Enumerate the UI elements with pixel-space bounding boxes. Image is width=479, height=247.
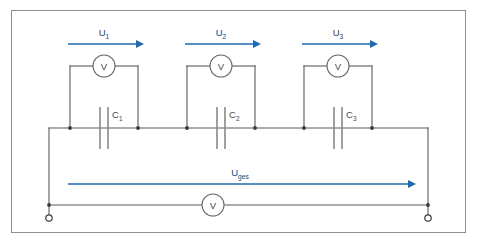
branch-2-voltage-label: U2: [216, 27, 227, 40]
branch-1-node-right: [136, 126, 140, 130]
branch-2-arrowhead: [253, 40, 261, 48]
branch-1-arrowhead: [136, 40, 144, 48]
branch-3-voltage-label-subscript: 3: [340, 33, 344, 40]
branch-2-group: U2 V C2: [185, 27, 261, 149]
branch-1-group: U1 V C1: [68, 27, 144, 149]
branch-1-voltmeter-label: V: [101, 61, 108, 72]
branch-1-voltage-label: U1: [99, 27, 110, 40]
branch-2-voltage-label-subscript: 2: [223, 33, 227, 40]
branch-2-node-left: [185, 126, 189, 130]
branch-3-node-left: [302, 126, 306, 130]
branch-3-group: U3 V C3: [302, 27, 378, 149]
bottom-node-left: [47, 203, 51, 207]
branch-3-arrowhead: [370, 40, 378, 48]
branch-3-capacitor-label: C3: [346, 109, 357, 122]
bottom-node-right: [426, 203, 430, 207]
total-voltmeter-label: V: [210, 200, 217, 211]
branch-2-capacitor-label: C2: [229, 109, 240, 122]
total-branch-group: Uges V: [47, 167, 430, 216]
diagram-canvas: U1 V C1 U2 V: [0, 0, 479, 247]
total-voltage-label-subscript: ges: [238, 173, 249, 181]
branch-1-voltage-label-subscript: 1: [106, 33, 110, 40]
branch-1-node-left: [68, 126, 72, 130]
branch-3-voltmeter-label: V: [335, 61, 342, 72]
branch-3-voltage-label: U3: [333, 27, 344, 40]
branch-2-capacitor-label-subscript: 2: [236, 115, 240, 122]
circuit-schematic: U1 V C1 U2 V: [0, 0, 479, 247]
terminal-right[interactable]: [425, 215, 431, 221]
branch-2-node-right: [253, 126, 257, 130]
terminal-left[interactable]: [46, 215, 52, 221]
branch-1-capacitor-label: C1: [112, 109, 123, 122]
total-arrowhead: [408, 180, 416, 188]
branch-3-node-right: [370, 126, 374, 130]
branch-2-voltmeter-label: V: [218, 61, 225, 72]
total-voltage-label: Uges: [231, 167, 249, 181]
branch-3-capacitor-label-subscript: 3: [353, 115, 357, 122]
branch-1-capacitor-label-subscript: 1: [119, 115, 123, 122]
